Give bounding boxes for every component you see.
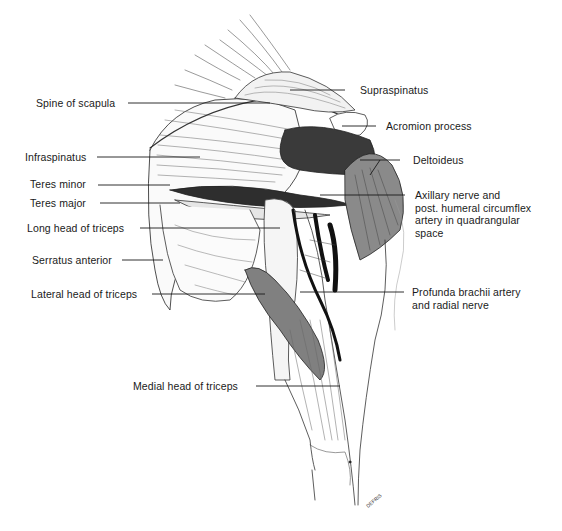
label-lateral-head-of-triceps: Lateral head of triceps xyxy=(31,288,137,301)
label-profunda-brachii: Profunda brachii artery and radial nerve xyxy=(412,286,521,311)
label-medial-head-of-triceps: Medial head of triceps xyxy=(133,380,238,393)
label-supraspinatus: Supraspinatus xyxy=(360,84,428,97)
label-teres-minor: Teres minor xyxy=(30,178,86,191)
label-deltoideus: Deltoideus xyxy=(413,154,464,167)
label-teres-major: Teres major xyxy=(30,197,86,210)
label-acromion-process: Acromion process xyxy=(386,120,472,133)
label-infraspinatus: Infraspinatus xyxy=(25,151,86,164)
label-serratus-anterior: Serratus anterior xyxy=(32,254,112,267)
label-spine-of-scapula: Spine of scapula xyxy=(36,97,115,110)
deltoid xyxy=(345,154,404,260)
anatomy-figure: DEFRIS Spine of scapula Infraspinatus Te… xyxy=(0,0,562,531)
label-axillary-nerve: Axillary nerve and post. humeral circumf… xyxy=(415,189,531,239)
artist-signature: DEFRIS xyxy=(365,492,383,509)
label-long-head-of-triceps: Long head of triceps xyxy=(27,222,124,235)
